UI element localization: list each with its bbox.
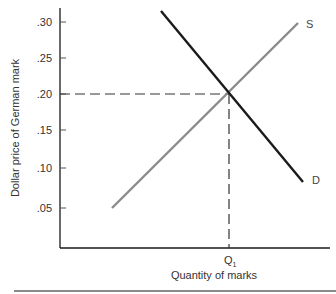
y-tick-label-20: .20 xyxy=(37,88,52,100)
y-tick-label-10: .10 xyxy=(37,162,52,174)
q1-label: Q1 xyxy=(224,254,237,268)
y-tick-label-05: .05 xyxy=(37,202,52,214)
y-tick-label-30: .30 xyxy=(37,16,52,28)
y-ticks xyxy=(60,22,66,208)
y-tick-label-15: .15 xyxy=(37,124,52,136)
y-axis-title: Dollar price of German mark xyxy=(9,58,21,197)
y-tick-label-25: .25 xyxy=(37,52,52,64)
demand-label: D xyxy=(312,174,320,186)
supply-curve xyxy=(112,23,298,208)
x-axis-title: Quantity of marks xyxy=(171,269,258,281)
supply-demand-chart: .30 .25 .20 .15 .10 .05 Dollar price of … xyxy=(0,0,336,294)
demand-curve xyxy=(161,11,303,182)
supply-label: S xyxy=(306,18,313,30)
